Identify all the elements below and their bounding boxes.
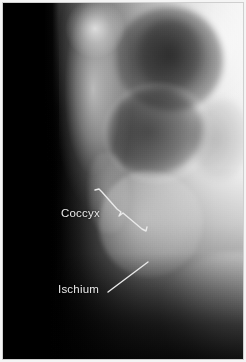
annotation-label-ischium: Ischium <box>58 283 99 295</box>
radiograph-figure: Coccyx Ischium <box>0 0 246 362</box>
ischium-leader-line <box>108 262 148 292</box>
coccyx-leader-line <box>95 189 147 231</box>
annotation-leader-lines <box>3 3 243 359</box>
annotation-label-coccyx: Coccyx <box>61 207 100 219</box>
